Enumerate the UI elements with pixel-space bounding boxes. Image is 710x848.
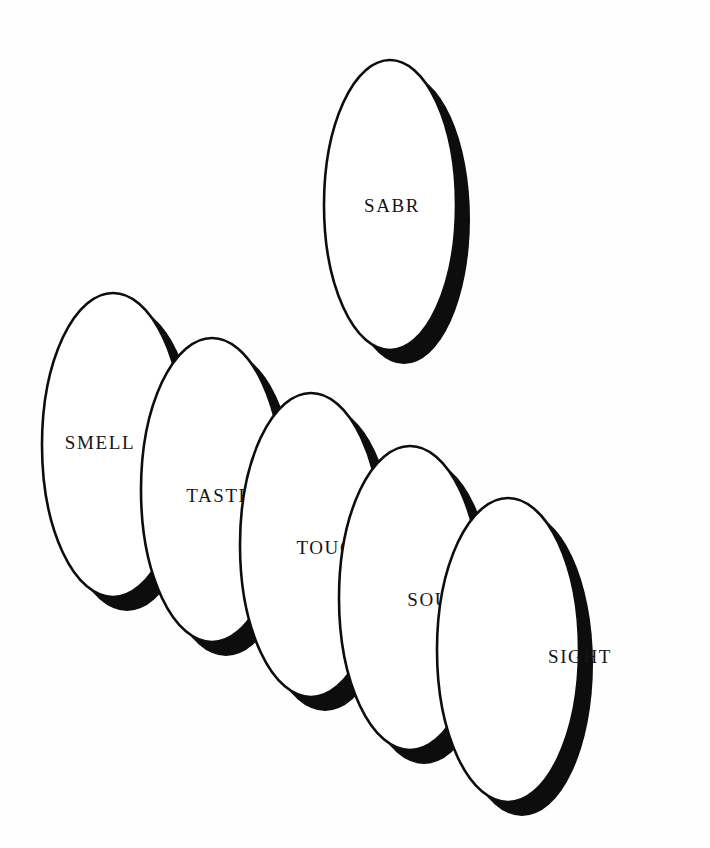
smell-label: SMELL (65, 432, 135, 453)
node-sight[interactable]: SIGHT (437, 498, 612, 816)
sabr-label: SABR (364, 195, 420, 216)
node-sabr[interactable]: SABR (324, 60, 470, 364)
diagram-canvas: SABR SMELL TASTE TOUCH SOUND (0, 0, 710, 848)
senses-diagram-svg: SABR SMELL TASTE TOUCH SOUND (0, 0, 710, 848)
sight-label: SIGHT (548, 646, 612, 667)
